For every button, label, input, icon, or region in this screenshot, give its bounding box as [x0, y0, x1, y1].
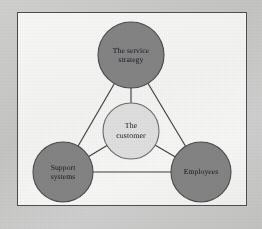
node-group-center — [103, 103, 159, 159]
node-support-systems[interactable] — [33, 142, 93, 202]
service-triangle-screenshot: The service strategy Support systems Emp… — [0, 0, 262, 229]
diagram-canvas: The service strategy Support systems Emp… — [17, 12, 247, 206]
node-employees[interactable] — [171, 142, 231, 202]
node-service-strategy[interactable] — [98, 22, 164, 88]
node-customer[interactable] — [103, 103, 159, 159]
